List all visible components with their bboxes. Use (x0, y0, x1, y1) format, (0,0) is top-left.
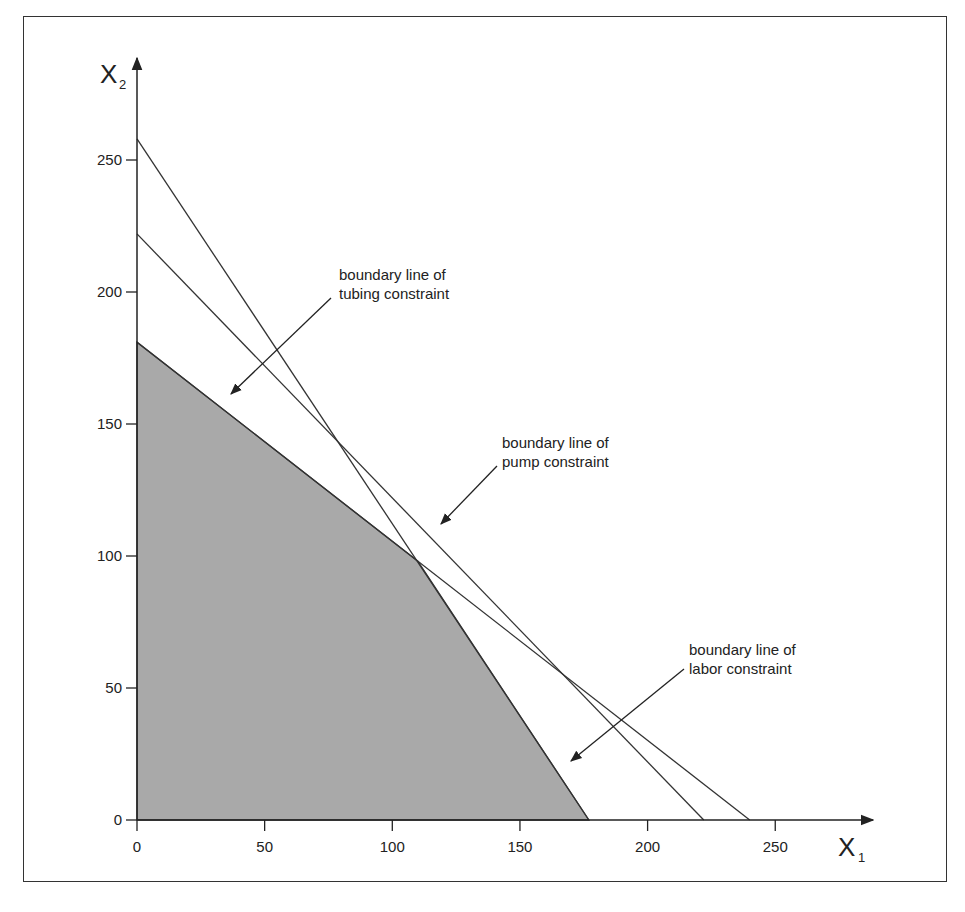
annotation-arrow-icon (441, 466, 497, 524)
feasible-region (137, 342, 589, 820)
feasible-region-polygon (137, 342, 589, 820)
x-tick-label: 50 (256, 838, 273, 855)
annotation-arrow-icon (571, 669, 684, 761)
annotation-text: boundary line ofpump constraint (502, 434, 610, 470)
y-tick-label: 150 (97, 415, 122, 432)
y-tick-label: 250 (97, 151, 122, 168)
x-axis-title: X (838, 832, 855, 862)
y-tick-label: 50 (105, 679, 122, 696)
y-tick-label: 200 (97, 283, 122, 300)
x-tick-label: 0 (133, 838, 141, 855)
y-tick-label: 0 (114, 811, 122, 828)
x-tick-label: 150 (507, 838, 532, 855)
y-axis-title-subscript: 2 (119, 77, 126, 92)
y-tick-label: 100 (97, 547, 122, 564)
chart: 050100150200250050100150200250X1X2 bound… (0, 0, 965, 912)
annotation-text: boundary line oflabor constraint (689, 641, 797, 677)
x-tick-label: 250 (763, 838, 788, 855)
y-axis-title: X (100, 59, 117, 89)
x-tick-label: 200 (635, 838, 660, 855)
x-tick-label: 100 (380, 838, 405, 855)
annotation-text: boundary line oftubing constraint (339, 266, 450, 302)
x-axis-title-subscript: 1 (858, 850, 865, 865)
annotation-pump: boundary line ofpump constraint (441, 434, 610, 524)
annotation-labor: boundary line oflabor constraint (571, 641, 797, 761)
